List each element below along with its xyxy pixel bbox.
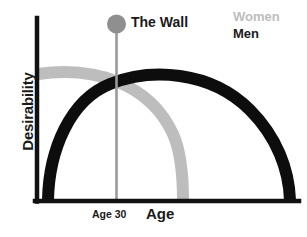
legend-item-men: Men — [233, 27, 259, 40]
chart-plot-area — [0, 0, 307, 237]
x-axis-label: Age — [146, 206, 174, 221]
chart-container: Desirability Age Age 30 The Wall Women M… — [0, 0, 307, 237]
the-wall-marker-dot — [107, 15, 126, 34]
age-30-tick-label: Age 30 — [92, 209, 126, 220]
y-axis-label: Desirability — [20, 52, 35, 172]
the-wall-annotation-label: The Wall — [131, 15, 188, 29]
legend-item-women: Women — [233, 10, 280, 23]
